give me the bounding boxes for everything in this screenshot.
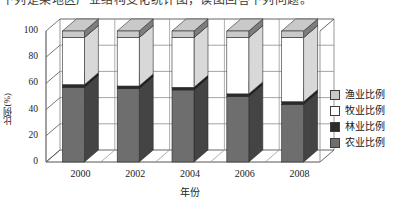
y-axis-title: 比例(%) <box>0 69 15 149</box>
segment-front-face <box>62 87 84 162</box>
x-tick-label-2002: 2002 <box>112 168 158 179</box>
segment-front-face <box>282 102 304 105</box>
legend-item-农业比例: 农业比例 <box>330 135 404 151</box>
segment-front-face <box>172 38 194 88</box>
y-tick-label-60: 60 <box>14 77 38 87</box>
legend-item-牧业比例: 牧业比例 <box>330 103 404 119</box>
floor-divider-3 <box>210 150 224 162</box>
chart-left-wall <box>46 19 60 162</box>
clipped-header-text: 下列是某地区产业结构变化统计图，读图回答下列问题。 <box>0 0 404 9</box>
floor-divider-4 <box>265 150 279 162</box>
segment-front-face <box>227 97 249 163</box>
legend-label: 牧业比例 <box>345 106 385 116</box>
plot-area: 比例(%) 020406080100 20002002200420062008 … <box>0 9 404 218</box>
segment-front-face <box>117 38 139 86</box>
segment-front-face <box>282 38 304 102</box>
x-tick-label-2004: 2004 <box>167 168 213 179</box>
y-tick-label-0: 0 <box>14 156 38 166</box>
segment-front-face <box>172 90 194 162</box>
segment-front-face <box>117 31 139 38</box>
chart-figure: 下列是某地区产业结构变化统计图，读图回答下列问题。 比例(%) 02040608… <box>0 0 404 218</box>
bar-2004 <box>172 19 208 162</box>
legend-label: 渔业比例 <box>345 90 385 100</box>
floor-right-edge <box>320 150 334 162</box>
segment-side-face <box>304 26 318 102</box>
segment-front-face <box>282 104 304 162</box>
floor-divider-1 <box>101 150 115 162</box>
segment-front-face <box>117 86 139 89</box>
segment-side-face <box>194 78 208 162</box>
segment-front-face <box>117 89 139 162</box>
floor-divider-2 <box>156 150 170 162</box>
segment-front-face <box>62 85 84 88</box>
segment-side-face <box>139 77 153 162</box>
bar-2002 <box>117 19 153 162</box>
chart-legend: 渔业比例牧业比例林业比例农业比例 <box>330 87 404 151</box>
segment-front-face <box>62 38 84 85</box>
legend-item-林业比例: 林业比例 <box>330 119 404 135</box>
x-axis-title: 年份 <box>150 184 230 199</box>
bar-2008 <box>282 19 318 162</box>
bar-segment-2002-农业比例 <box>117 77 153 162</box>
segment-front-face <box>282 31 304 38</box>
legend-item-渔业比例: 渔业比例 <box>330 87 404 103</box>
x-tick-label-2006: 2006 <box>222 168 268 179</box>
legend-swatch-icon <box>330 138 340 148</box>
segment-front-face <box>227 94 249 97</box>
x-tick-label-2008: 2008 <box>277 168 323 179</box>
segment-front-face <box>227 31 249 38</box>
y-tick-label-100: 100 <box>14 25 38 35</box>
legend-swatch-icon <box>330 90 340 100</box>
bar-2000 <box>62 19 98 162</box>
segment-front-face <box>62 31 84 38</box>
bar-segment-2004-农业比例 <box>172 78 208 162</box>
legend-swatch-icon <box>330 106 340 116</box>
segment-side-face <box>249 85 263 163</box>
segment-front-face <box>172 87 194 90</box>
segment-front-face <box>172 31 194 38</box>
clipped-header-label: 下列是某地区产业结构变化统计图，读图回答下列问题。 <box>2 0 312 8</box>
y-tick-label-40: 40 <box>14 104 38 114</box>
y-tick-label-80: 80 <box>14 51 38 61</box>
segment-side-face <box>84 75 98 162</box>
x-tick-label-2000: 2000 <box>57 168 103 179</box>
legend-label: 林业比例 <box>345 122 385 132</box>
segment-front-face <box>227 38 249 94</box>
bar-2006 <box>227 19 263 162</box>
bar-segment-2000-农业比例 <box>62 75 98 162</box>
legend-swatch-icon <box>330 122 340 132</box>
y-tick-label-20: 20 <box>14 130 38 140</box>
legend-label: 农业比例 <box>345 138 385 148</box>
